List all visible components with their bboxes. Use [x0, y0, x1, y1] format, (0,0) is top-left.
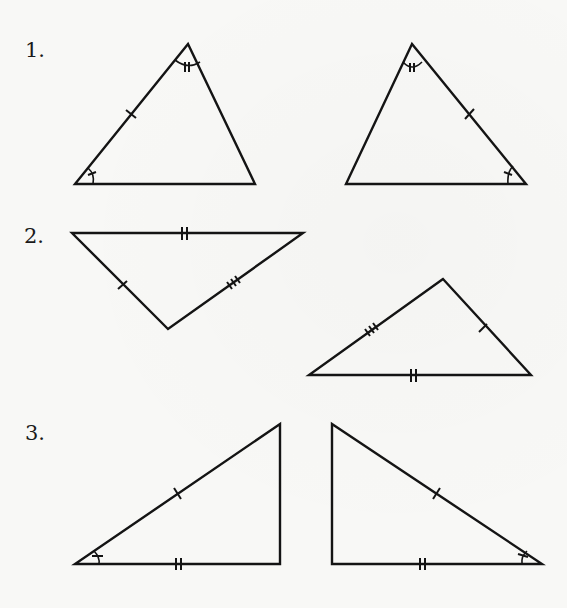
angle-tick [88, 172, 96, 175]
angle-arc-bottom-left [88, 168, 93, 184]
angle-tick [504, 172, 512, 175]
angle-arc-top [403, 62, 422, 67]
problem-1-triangle-left [75, 44, 255, 184]
problem-3-triangle-right [332, 424, 542, 570]
angle-arc-bottom-left [94, 551, 99, 564]
triangle-figures [0, 0, 567, 608]
problem-2-triangle-top-left [72, 227, 303, 329]
textbook-page: ​ 1. 2. 3. [0, 0, 567, 608]
side-tick-single [433, 488, 440, 499]
problem-2-triangle-bottom-right [309, 279, 531, 382]
problem-1-triangle-right [346, 44, 526, 184]
side-tick-single [479, 324, 487, 332]
problem-3-triangle-left [75, 424, 280, 570]
